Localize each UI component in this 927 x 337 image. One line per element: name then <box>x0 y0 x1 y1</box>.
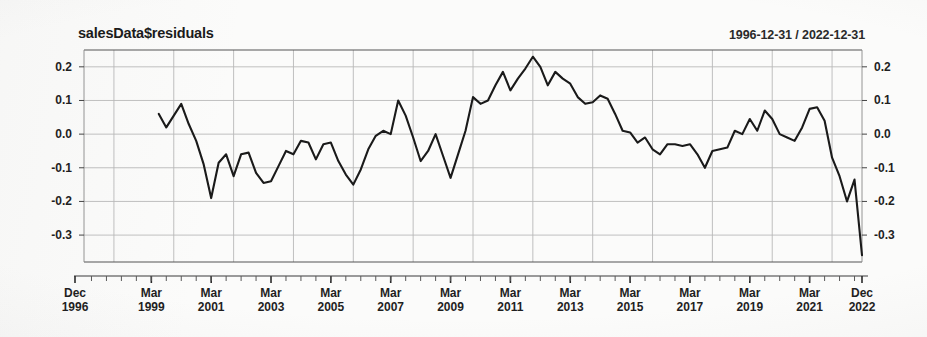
x-axis-label: Mar2021 <box>780 286 840 314</box>
chart-screenshot: salesData$residuals 1996-12-31 / 2022-12… <box>0 0 927 337</box>
y-axis-label: -0.2 <box>26 194 72 208</box>
y-axis-label-right: 0.2 <box>874 60 920 74</box>
y-axis-label: -0.1 <box>26 161 72 175</box>
vertical-gridlines <box>114 50 832 262</box>
x-axis-label: Dec2022 <box>832 286 892 314</box>
x-axis-label: Mar2005 <box>301 286 361 314</box>
y-axis-label: 0.1 <box>26 93 72 107</box>
y-axis-label-right: -0.3 <box>874 228 920 242</box>
y-axis-label-right: 0.0 <box>874 127 920 141</box>
x-axis-label: Mar2013 <box>540 286 600 314</box>
x-axis-label: Mar2017 <box>660 286 720 314</box>
x-axis-label: Mar2015 <box>600 286 660 314</box>
x-axis-label: Mar2007 <box>361 286 421 314</box>
x-axis-label: Mar1999 <box>121 286 181 314</box>
y-axis-label: 0.0 <box>26 127 72 141</box>
x-axis-label: Mar2019 <box>720 286 780 314</box>
x-axis-label: Mar2011 <box>480 286 540 314</box>
x-axis-label: Mar2003 <box>241 286 301 314</box>
y-axis-label: -0.3 <box>26 228 72 242</box>
y-axis-label-right: -0.2 <box>874 194 920 208</box>
y-axis-label: 0.2 <box>26 60 72 74</box>
x-axis-ticks <box>74 276 868 283</box>
residuals-line <box>159 57 862 256</box>
y-axis-label-right: -0.1 <box>874 161 920 175</box>
y-axis-label-right: 0.1 <box>874 93 920 107</box>
x-axis-label: Mar2001 <box>181 286 241 314</box>
x-axis-label: Mar2009 <box>421 286 481 314</box>
x-axis-label: Dec1996 <box>45 286 105 314</box>
